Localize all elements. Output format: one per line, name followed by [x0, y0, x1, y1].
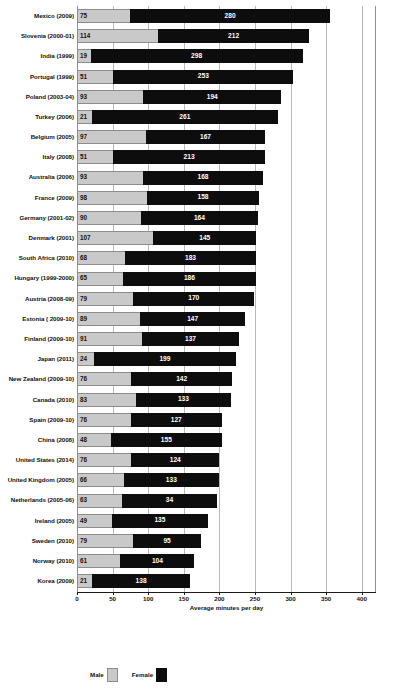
chart-row: Italy (2008)51213 — [0, 147, 396, 167]
chart-row: China (2008)48155 — [0, 430, 396, 450]
stacked-bar: 114212 — [77, 29, 309, 43]
bar-value-male: 51 — [80, 74, 87, 80]
bar-value-male: 90 — [80, 215, 87, 221]
bar-value-female: 194 — [204, 94, 221, 101]
chart-row: Turkey (2006)21261 — [0, 107, 396, 127]
chart-row: United Kingdom (2005)66133 — [0, 470, 396, 490]
bar-value-female: 261 — [176, 114, 193, 121]
bar-segment-male: 76 — [77, 372, 131, 386]
chart-row: Korea (2009)21138 — [0, 571, 396, 591]
bar-segment-male: 61 — [77, 554, 120, 568]
bar-zone: 107145 — [77, 228, 376, 248]
row-category-label: Canada (2010) — [0, 397, 77, 403]
stacked-bar: 79170 — [77, 292, 254, 306]
stacked-bar: 68183 — [77, 251, 256, 265]
x-axis-tick-label: 200 — [214, 596, 224, 602]
bar-value-female: 137 — [182, 336, 199, 343]
bar-segment-male: 89 — [77, 312, 140, 326]
bar-segment-female: 194 — [143, 90, 281, 104]
stacked-bar: 90164 — [77, 211, 258, 225]
row-category-label: Finland (2009-10) — [0, 336, 77, 342]
row-category-label: Estonia ( 2009-10) — [0, 316, 77, 322]
bar-segment-female: 298 — [91, 49, 303, 63]
bar-segment-female: 137 — [142, 332, 240, 346]
row-category-label: Italy (2008) — [0, 154, 77, 160]
bar-value-female: 168 — [194, 174, 211, 181]
chart-legend: Male Female — [90, 668, 167, 682]
bar-value-male: 79 — [80, 296, 87, 302]
bar-zone: 97167 — [77, 127, 376, 147]
bar-segment-female: 133 — [124, 473, 219, 487]
bar-zone: 98158 — [77, 188, 376, 208]
stacked-bar: 76127 — [77, 413, 222, 427]
chart-rows: Mexico (2009)75280Slovenia (2000-01)1142… — [0, 6, 396, 591]
bar-value-male: 65 — [80, 275, 87, 281]
bar-zone: 48155 — [77, 430, 376, 450]
stacked-bar: 93168 — [77, 171, 263, 185]
stacked-bar: 51213 — [77, 150, 265, 164]
bar-segment-female: 133 — [136, 393, 231, 407]
bar-value-male: 97 — [80, 134, 87, 140]
legend-label-female: Female — [132, 672, 153, 678]
row-category-label: Spain (2009-10) — [0, 417, 77, 423]
bar-value-female: 164 — [191, 215, 208, 222]
bar-value-female: 104 — [149, 558, 166, 565]
bar-zone: 89147 — [77, 309, 376, 329]
row-category-label: Australia (2006) — [0, 174, 77, 180]
bar-value-female: 34 — [163, 497, 176, 504]
stacked-bar: 21261 — [77, 110, 278, 124]
bar-value-male: 76 — [80, 376, 87, 382]
stacked-bar: 76124 — [77, 453, 219, 467]
chart-row: Japan (2011)24199 — [0, 349, 396, 369]
bar-zone: 49135 — [77, 511, 376, 531]
row-category-label: Austria (2008-09) — [0, 296, 77, 302]
x-axis-tick-label: 400 — [357, 596, 367, 602]
stacked-bar: 61104 — [77, 554, 194, 568]
stacked-bar-chart: Mexico (2009)75280Slovenia (2000-01)1142… — [0, 0, 396, 698]
bar-value-female: 212 — [225, 33, 242, 40]
chart-row: Estonia ( 2009-10)89147 — [0, 309, 396, 329]
bar-segment-female: 135 — [112, 514, 208, 528]
bar-segment-male: 107 — [77, 231, 153, 245]
bar-segment-female: 138 — [92, 574, 190, 588]
stacked-bar: 97167 — [77, 130, 265, 144]
bar-value-male: 61 — [80, 558, 87, 564]
bar-value-female: 298 — [188, 53, 205, 60]
chart-row: India (1999)19298 — [0, 46, 396, 66]
x-axis-tick-label: 100 — [143, 596, 153, 602]
bar-value-female: 158 — [194, 194, 211, 201]
chart-row: Slovenia (2000-01)114212 — [0, 26, 396, 46]
x-axis-tick-label: 50 — [109, 596, 116, 602]
bar-value-male: 98 — [80, 195, 87, 201]
chart-row: Canada (2010)83133 — [0, 390, 396, 410]
bar-value-male: 76 — [80, 417, 87, 423]
chart-row: Australia (2006)93168 — [0, 168, 396, 188]
chart-row: Denmark (2001)107145 — [0, 228, 396, 248]
row-category-label: Sweden (2010) — [0, 538, 77, 544]
row-category-label: Korea (2009) — [0, 578, 77, 584]
stacked-bar: 6334 — [77, 494, 217, 508]
bar-segment-female: 164 — [141, 211, 258, 225]
chart-row: Germany (2001-02)90164 — [0, 208, 396, 228]
legend-label-male: Male — [90, 672, 104, 678]
bar-segment-male: 68 — [77, 251, 125, 265]
bar-zone: 66133 — [77, 470, 376, 490]
bar-value-female: 183 — [182, 255, 199, 262]
bar-zone: 83133 — [77, 390, 376, 410]
chart-row: Hungary (1999-2000)65186 — [0, 268, 396, 288]
row-category-label: Turkey (2006) — [0, 114, 77, 120]
chart-row: Poland (2003-04)93194 — [0, 87, 396, 107]
chart-row: United States (2014)76124 — [0, 450, 396, 470]
bar-value-female: 253 — [195, 73, 212, 80]
bar-value-female: 167 — [197, 134, 214, 141]
chart-row: Finland (2009-10)91137 — [0, 329, 396, 349]
bar-value-female: 213 — [181, 154, 198, 161]
bar-segment-female: 212 — [158, 29, 309, 43]
male-swatch-icon — [107, 668, 118, 682]
bar-value-male: 51 — [80, 154, 87, 160]
bar-segment-male: 83 — [77, 393, 136, 407]
stacked-bar: 65186 — [77, 272, 256, 286]
bar-value-female: 95 — [160, 538, 173, 545]
chart-row: Netherlands (2005-06)6334 — [0, 491, 396, 511]
chart-row: Portugal (1999)51253 — [0, 67, 396, 87]
